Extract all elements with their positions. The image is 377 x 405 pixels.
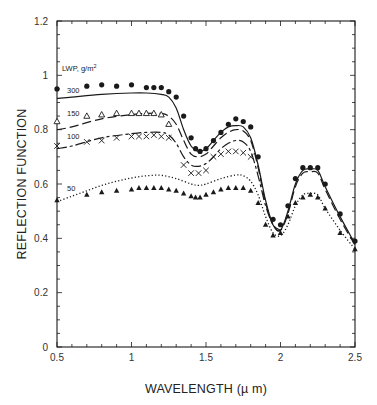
filled-triangle-icon <box>174 188 179 193</box>
filled-circle-icon <box>151 85 156 90</box>
filled-circle-icon <box>270 217 275 222</box>
filled-triangle-icon <box>248 188 253 193</box>
x-mark-icon <box>211 154 217 160</box>
filled-triangle-icon <box>136 185 141 190</box>
filled-circle-icon <box>99 82 104 87</box>
y-tick-label: 0.2 <box>34 287 48 298</box>
filled-triangle-icon <box>241 185 246 190</box>
filled-triangle-icon <box>352 246 357 251</box>
filled-circle-icon <box>285 203 290 208</box>
filled-triangle-icon <box>300 195 305 200</box>
filled-circle-icon <box>211 138 216 143</box>
y-tick-label: 0.4 <box>34 233 48 244</box>
curve-150-model <box>57 113 355 245</box>
filled-circle-icon <box>300 165 305 170</box>
filled-triangle-icon <box>218 186 223 191</box>
x-mark-icon <box>129 134 135 140</box>
filled-triangle-icon <box>233 185 238 190</box>
x-mark-icon <box>240 150 246 156</box>
filled-circle-icon <box>323 181 328 186</box>
x-tick-label: 2 <box>278 352 284 363</box>
reflection-chart: 0.511.522.5 00.20.40.60.811.2 LWP, g/m2 … <box>0 0 377 405</box>
filled-triangle-icon <box>129 186 134 191</box>
filled-circle-icon <box>278 222 283 227</box>
filled-circle-icon <box>233 116 238 121</box>
filled-circle-icon <box>248 124 253 129</box>
x-tick-label: 1 <box>129 352 135 363</box>
x-mark-icon <box>203 168 209 174</box>
x-mark-icon <box>99 138 105 144</box>
curve-label-150: 150 <box>67 109 80 118</box>
open-triangle-icon <box>99 112 105 117</box>
x-axis-ticks: 0.511.522.5 <box>50 21 362 363</box>
filled-triangle-icon <box>211 189 216 194</box>
filled-circle-icon <box>174 94 179 99</box>
filled-circle-icon <box>218 130 223 135</box>
filled-circle-icon <box>181 113 186 118</box>
y-tick-label: 0.8 <box>34 124 48 135</box>
y-tick-label: 0 <box>42 342 48 353</box>
markers-100-x <box>54 132 253 176</box>
x-mark-icon <box>226 149 232 155</box>
legend-title: LWP, g/m2 <box>62 63 96 73</box>
filled-triangle-icon <box>197 195 202 200</box>
x-mark-icon <box>151 132 157 138</box>
curve-50-model <box>57 175 355 249</box>
x-mark-icon <box>136 134 142 140</box>
markers-50-filled-triangle <box>54 185 357 251</box>
open-triangle-icon <box>166 121 172 126</box>
filled-triangle-icon <box>166 186 171 191</box>
open-triangle-icon <box>84 113 90 118</box>
curve-label-300: 300 <box>67 86 80 95</box>
open-triangle-icon <box>54 118 60 123</box>
x-mark-icon <box>218 151 224 157</box>
x-mark-icon <box>144 134 150 140</box>
x-tick-label: 1.5 <box>199 352 213 363</box>
filled-circle-icon <box>315 165 320 170</box>
filled-circle-icon <box>203 146 208 151</box>
curve-100-model <box>57 132 281 230</box>
filled-circle-icon <box>197 149 202 154</box>
y-tick-label: 0.6 <box>34 179 48 190</box>
filled-triangle-icon <box>159 185 164 190</box>
y-tick-label: 1 <box>42 70 48 81</box>
open-triangle-icon <box>129 110 135 115</box>
x-mark-icon <box>181 162 187 168</box>
filled-circle-icon <box>338 211 343 216</box>
filled-circle-icon <box>226 122 231 127</box>
curve-label-50: 50 <box>67 184 75 193</box>
open-triangle-icon <box>114 110 120 115</box>
x-tick-label: 2.5 <box>348 352 362 363</box>
filled-triangle-icon <box>308 192 313 197</box>
curve-label-100: 100 <box>67 132 80 141</box>
filled-circle-icon <box>352 238 357 243</box>
filled-triangle-icon <box>188 193 193 198</box>
x-mark-icon <box>159 134 165 140</box>
x-mark-icon <box>233 149 239 155</box>
filled-circle-icon <box>166 89 171 94</box>
filled-circle-icon <box>159 85 164 90</box>
filled-circle-icon <box>129 82 134 87</box>
filled-circle-icon <box>256 154 261 159</box>
filled-circle-icon <box>193 146 198 151</box>
x-axis-title: WAVELENGTH (µ m) <box>145 382 267 396</box>
filled-triangle-icon <box>54 197 59 202</box>
x-mark-icon <box>188 170 194 176</box>
x-mark-icon <box>166 135 172 141</box>
filled-triangle-icon <box>84 192 89 197</box>
filled-triangle-icon <box>263 222 268 227</box>
filled-circle-icon <box>114 84 119 89</box>
filled-triangle-icon <box>193 195 198 200</box>
plot-frame <box>57 21 355 347</box>
filled-triangle-icon <box>181 191 186 196</box>
y-tick-label: 1.2 <box>34 16 48 27</box>
filled-triangle-icon <box>226 185 231 190</box>
filled-circle-icon <box>308 165 313 170</box>
filled-triangle-icon <box>293 200 298 205</box>
x-tick-label: 0.5 <box>50 352 64 363</box>
filled-circle-icon <box>293 176 298 181</box>
filled-circle-icon <box>189 135 194 140</box>
open-triangle-icon <box>136 110 142 115</box>
x-mark-icon <box>196 170 202 176</box>
observed-markers <box>54 82 358 251</box>
